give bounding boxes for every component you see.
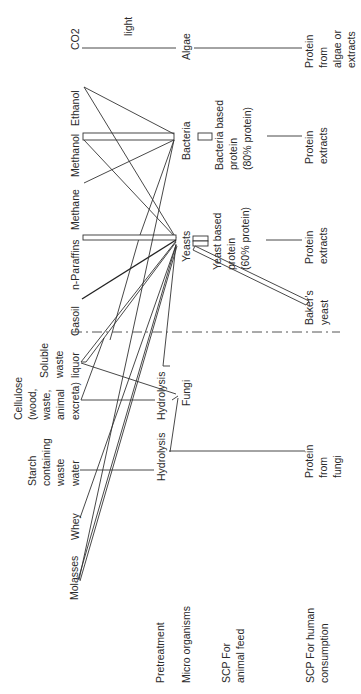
label-cellulose-3: animal — [54, 389, 66, 420]
animal-feed-labels: Bacteria based protein (80% protein) Yea… — [211, 100, 253, 270]
label-starch-1: containing — [40, 438, 52, 486]
label-hydrolysis-starch: Hydrolysis — [155, 433, 167, 481]
scp-production-diagram: CO2 Ethanol Methanol Methane n-Paraffins… — [0, 0, 361, 694]
label-yeast-protein-2: (60% protein) — [239, 207, 251, 270]
label-cellulose-1: (wood, — [26, 388, 38, 420]
label-soluble-2: liquor — [69, 352, 81, 378]
connection-lines — [72, 48, 340, 581]
row-label-human-1: consumption — [318, 623, 330, 683]
label-bacteria-extracts-0: Protein — [303, 131, 315, 164]
yeast-protein-box-2 — [193, 241, 208, 246]
line-liquor-yeasts-1 — [81, 241, 176, 362]
label-yeasts: Yeasts — [180, 231, 192, 262]
label-fungi-protein-0: Protein — [303, 445, 315, 478]
label-yeast-protein-1: protein — [225, 238, 237, 270]
row-label-micro-organisms: Micro organisms — [180, 606, 192, 683]
line-liquor-yeasts-2 — [86, 242, 176, 362]
diagram-canvas: CO2 Ethanol Methanol Methane n-Paraffins… — [0, 0, 361, 694]
row-label-animal-feed-1: animal feed — [234, 629, 246, 683]
micro-organism-labels: Algae Bacteria Yeasts Baker's yeast Fung… — [180, 33, 330, 406]
row-label-human-0: SCP For human — [304, 608, 316, 683]
label-starch-2: waste — [54, 458, 66, 487]
label-starch-3: water — [69, 460, 81, 487]
bacteria-protein-box — [198, 133, 212, 140]
line-ethanol-yeasts — [84, 87, 176, 238]
line-methanol-yeasts — [84, 140, 176, 238]
label-bacteria: Bacteria — [180, 121, 192, 160]
label-algae-protein-1: from — [317, 47, 329, 68]
row-labels: Pretreatment Micro organisms SCP For ani… — [154, 606, 330, 683]
human-consumption-labels: Protein from algae or extracts Protein e… — [303, 30, 357, 478]
row-label-pretreatment: Pretreatment — [154, 622, 166, 683]
line-gasoil-yeasts — [82, 240, 176, 299]
label-fungi-protein-1: from — [317, 457, 329, 478]
label-co2: CO2 — [69, 28, 81, 50]
label-n-paraffins: n-Paraffins — [69, 239, 81, 290]
line-fungi-hydrolysis2 — [170, 398, 178, 452]
label-fungi: Fungi — [180, 380, 192, 406]
label-algae: Algae — [180, 33, 192, 60]
label-starch-0: Starch — [26, 455, 38, 486]
label-cellulose-4: excreta) — [69, 382, 81, 420]
label-bacteria-protein-1: protein — [227, 138, 239, 170]
label-whey: Whey — [69, 512, 81, 540]
methanol-bar — [83, 133, 174, 140]
n-paraffins-bar — [83, 235, 176, 240]
line-molasses-bacteria — [79, 140, 174, 580]
label-algae-protein-0: Protein — [303, 35, 315, 68]
label-light: light — [122, 17, 134, 36]
label-ethanol: Ethanol — [69, 90, 81, 126]
label-bacteria-protein-0: Bacteria based — [213, 100, 225, 170]
line-hydrolysis-fungi — [172, 396, 178, 400]
label-cellulose-0: Cellulose — [12, 377, 24, 420]
label-yeast-extracts-1: extracts — [317, 227, 329, 264]
label-soluble-0: Soluble — [38, 343, 50, 378]
line-ethanol-bacteria — [84, 87, 174, 134]
label-fungi-protein-2: fungi — [331, 455, 343, 478]
label-algae-protein-2: algae or — [331, 30, 343, 68]
label-hydrolysis-cellulose: Hydrolysis — [155, 372, 167, 420]
substrate-labels: CO2 Ethanol Methanol Methane n-Paraffins… — [12, 28, 81, 600]
label-bacteria-protein-2: (80% protein) — [241, 107, 253, 170]
yeast-protein-box-1 — [193, 236, 208, 241]
label-bakers-0: Baker's — [303, 290, 315, 325]
row-label-animal-feed-0: SCP For — [220, 642, 232, 683]
label-gasoil: Gasoil — [69, 306, 81, 336]
label-cellulose-2: waste, — [40, 390, 52, 421]
label-yeast-extracts-0: Protein — [303, 231, 315, 264]
label-algae-protein-3: extracts — [345, 31, 357, 68]
label-bacteria-extracts-1: extracts — [317, 127, 329, 164]
label-methane: Methane — [69, 189, 81, 230]
label-soluble-1: waste — [53, 350, 65, 379]
label-bakers-1: yeast — [318, 300, 330, 325]
label-molasses: Molasses — [68, 556, 80, 600]
label-yeast-protein-0: Yeast based — [211, 212, 223, 270]
label-methanol: Methanol — [69, 134, 81, 177]
